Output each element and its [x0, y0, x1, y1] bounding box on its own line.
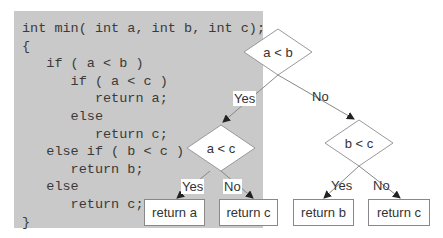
terminal-return-c-right: return c: [368, 199, 430, 226]
edge-label-left-yes: Yes: [181, 179, 204, 194]
edge-label-root-no: No: [311, 89, 330, 104]
decision-left-label: a < c: [207, 141, 236, 156]
terminal-return-b: return b: [293, 199, 354, 226]
edge-label-right-no: No: [372, 178, 391, 193]
edge-label-root-yes: Yes: [233, 91, 256, 106]
edge-label-left-no: No: [223, 179, 242, 194]
terminal-return-c-left: return c: [219, 199, 278, 226]
decision-root-label: a < b: [263, 45, 292, 60]
decision-right-label: b < c: [345, 136, 374, 151]
edge-label-right-yes: Yes: [330, 178, 353, 193]
terminal-return-a: return a: [144, 199, 205, 226]
